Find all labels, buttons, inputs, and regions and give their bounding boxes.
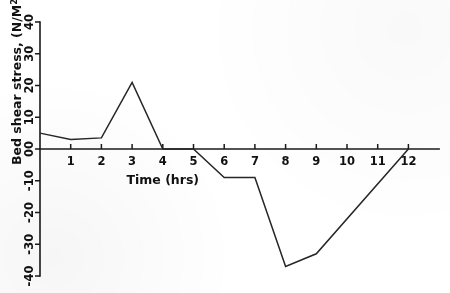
bed-shear-stress-line-chart: -40-30-20-100010203040 123456789101112 T… bbox=[0, 0, 450, 293]
y-axis-tick-label: 40 bbox=[22, 14, 36, 30]
x-axis-tick-label: 11 bbox=[370, 154, 386, 168]
x-axis-tick-label: 8 bbox=[282, 154, 290, 168]
y-axis-tick-label: -30 bbox=[22, 234, 36, 255]
y-axis-tick-labels: -40-30-20-100010203040 bbox=[22, 14, 36, 286]
x-axis-tick-label: 9 bbox=[312, 154, 320, 168]
x-axis-tick-label: 6 bbox=[220, 154, 228, 168]
y-axis-tick-label: 30 bbox=[22, 46, 36, 62]
x-axis-tick-label: 3 bbox=[128, 154, 136, 168]
y-axis-tick-label: -40 bbox=[22, 266, 36, 287]
x-axis-tick-label: 2 bbox=[97, 154, 105, 168]
y-axis-tick-label: 10 bbox=[22, 109, 36, 125]
y-axis-tick-label: 00 bbox=[22, 141, 36, 157]
x-axis-tick-label: 10 bbox=[339, 154, 355, 168]
chart-figure: -40-30-20-100010203040 123456789101112 T… bbox=[0, 0, 450, 293]
y-axis-title-exponent: 2 bbox=[9, 0, 19, 5]
x-axis-tick-label: 7 bbox=[251, 154, 259, 168]
x-axis-tick-labels: 123456789101112 bbox=[67, 154, 417, 168]
y-axis-title-main: Bed shear stress, bbox=[9, 42, 24, 165]
y-axis-tick-label: -20 bbox=[22, 202, 36, 223]
y-axis-tick-label: 20 bbox=[22, 77, 36, 93]
x-axis-tick-label: 4 bbox=[159, 154, 167, 168]
x-axis-tick-label: 1 bbox=[67, 154, 75, 168]
x-axis-tick-label: 5 bbox=[189, 154, 197, 168]
y-axis-title-group: Bed shear stress, (N/M2) bbox=[9, 0, 24, 165]
data-series-line bbox=[40, 82, 408, 266]
y-axis-tick-label: -10 bbox=[22, 170, 36, 191]
y-axis-title-units: (N/M bbox=[9, 5, 24, 38]
x-axis-title: Time (hrs) bbox=[126, 172, 199, 187]
y-axis-title: Bed shear stress, (N/M2) bbox=[9, 0, 24, 165]
